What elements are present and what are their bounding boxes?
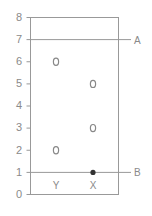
y-tick-label-8: 8 bbox=[8, 12, 22, 23]
reference-label-b: B bbox=[134, 167, 141, 178]
y-tick-label-2: 2 bbox=[8, 145, 22, 156]
data-point-x-1-filled bbox=[90, 170, 95, 175]
y-tick-label-0: 0 bbox=[8, 189, 22, 200]
y-tick-label-6: 6 bbox=[8, 56, 22, 67]
data-point-x-5 bbox=[90, 80, 95, 87]
data-point-y-6 bbox=[53, 58, 58, 65]
column-label-y: Y bbox=[46, 180, 66, 191]
y-tick-label-1: 1 bbox=[8, 167, 22, 178]
y-tick-label-5: 5 bbox=[8, 78, 22, 89]
plot-border bbox=[31, 18, 119, 195]
y-tick-label-7: 7 bbox=[8, 34, 22, 45]
chart-canvas bbox=[0, 0, 152, 216]
reference-label-a: A bbox=[134, 35, 141, 46]
y-tick-label-3: 3 bbox=[8, 122, 22, 133]
y-tick-label-4: 4 bbox=[8, 100, 22, 111]
data-point-x-3 bbox=[90, 125, 95, 132]
y-axis-ticks bbox=[27, 18, 31, 195]
column-label-x: X bbox=[83, 180, 103, 191]
scatter-chart: 8 7 6 5 4 3 2 1 0 Y X A B bbox=[0, 0, 152, 216]
data-point-y-2 bbox=[53, 147, 58, 154]
